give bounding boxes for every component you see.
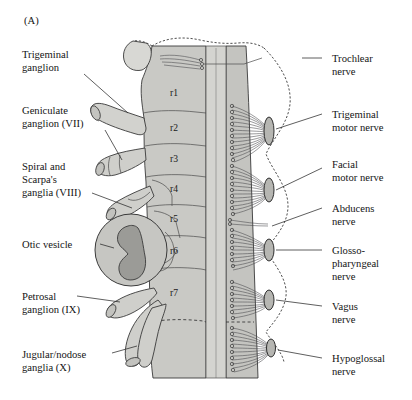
panel-label: (A) — [24, 15, 39, 27]
label-abducens-nerve: Abducens nerve — [332, 203, 377, 227]
leader-hypoglossal — [278, 350, 322, 358]
hindbrain-rhombomere-diagram: (A) r1 r2 r3 r4 r5 r6 r7 Trigeminal gang… — [0, 0, 412, 400]
left-labels-group: Trigeminal ganglion Geniculate ganglion … — [22, 49, 89, 374]
label-facial-motor-nerve: Facial motor nerve — [332, 159, 384, 183]
rhombomere-label-r2: r2 — [170, 122, 178, 133]
glossopharyngeal-root-cap — [264, 239, 274, 261]
label-vagus-nerve: Vagus nerve — [332, 301, 361, 325]
rhombomere-label-r5: r5 — [170, 213, 178, 224]
label-hypoglossal-nerve: Hypoglossal nerve — [332, 353, 388, 377]
anterior-lobe — [123, 41, 151, 71]
label-glossopharyngeal-nerve: Glosso- pharyngeal nerve — [332, 245, 382, 282]
hypoglossal-root-cap — [267, 339, 276, 357]
surface-ectoderm-dashed-border — [264, 48, 290, 362]
leader-petrosal-ganglion — [77, 296, 120, 302]
geniculate-ganglion-shape — [97, 148, 146, 176]
label-geniculate-ganglion: Geniculate ganglion (VII) — [22, 105, 84, 130]
label-spiral-scarpas-ganglia: Spiral and Scarpa's ganglia (VIII) — [22, 161, 82, 199]
rhombomere-label-r6: r6 — [170, 245, 178, 256]
leader-vagus-nerve — [276, 300, 322, 306]
leader-facial-motor — [276, 168, 322, 190]
leader-abducens-nerve — [272, 208, 322, 226]
label-trigeminal-ganglion: Trigeminal ganglion — [22, 49, 71, 73]
rhombomere-label-r4: r4 — [170, 183, 178, 194]
right-labels-group: Trochlear nerve Trigeminal motor nerve F… — [332, 53, 388, 377]
rhombomere-label-r1: r1 — [170, 87, 178, 98]
label-petrosal-ganglion: Petrosal ganglion (IX) — [22, 291, 80, 316]
trigeminal-motor-root-cap — [264, 117, 274, 145]
label-trochlear-nerve: Trochlear nerve — [332, 53, 375, 77]
figure-root: (A) r1 r2 r3 r4 r5 r6 r7 Trigeminal gang… — [0, 0, 412, 400]
rhombomere-label-r3: r3 — [170, 153, 178, 164]
leader-trigeminal-motor — [276, 114, 322, 129]
label-trigeminal-motor-nerve: Trigeminal motor nerve — [332, 109, 384, 133]
facial-motor-root-cap — [264, 178, 274, 202]
label-jugular-nodose-ganglia: Jugular/nodose ganglia (X) — [22, 349, 89, 374]
label-otic-vesicle: Otic vesicle — [22, 239, 73, 250]
vagus-root-cap — [264, 290, 274, 310]
rhombomere-label-r7: r7 — [170, 287, 178, 298]
